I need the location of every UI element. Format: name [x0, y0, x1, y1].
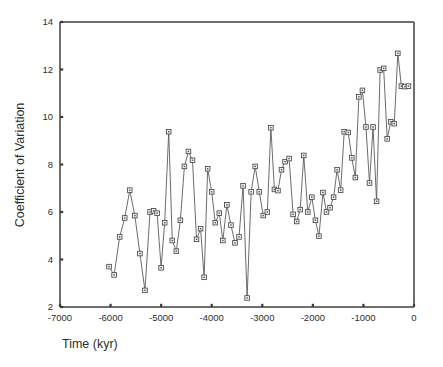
marker-center-dot	[372, 126, 373, 127]
marker-center-dot	[192, 160, 193, 161]
data-point-marker	[317, 234, 322, 239]
marker-center-dot	[397, 53, 398, 54]
data-point-marker	[205, 166, 210, 171]
data-point-marker	[331, 195, 336, 200]
marker-center-dot	[318, 236, 319, 237]
marker-center-dot	[144, 290, 145, 291]
marker-center-dot	[134, 215, 135, 216]
marker-center-dot	[263, 215, 264, 216]
data-point-marker	[265, 210, 270, 215]
x-tick-label: -1000	[351, 312, 375, 323]
marker-center-dot	[277, 190, 278, 191]
marker-center-dot	[200, 228, 201, 229]
marker-center-dot	[113, 274, 114, 275]
data-point-marker	[237, 235, 242, 240]
marker-center-dot	[250, 191, 251, 192]
series-markers	[107, 51, 411, 300]
marker-center-dot	[242, 185, 243, 186]
data-point-marker	[381, 66, 386, 71]
y-tick-label: 8	[48, 159, 53, 170]
data-point-marker	[306, 210, 311, 215]
marker-center-dot	[207, 168, 208, 169]
x-tick-label: -7000	[48, 312, 72, 323]
data-point-marker	[245, 296, 250, 301]
data-point-marker	[335, 167, 340, 172]
x-axis-title: Time (kyr)	[62, 337, 118, 351]
marker-center-dot	[351, 157, 352, 158]
data-point-marker	[178, 218, 183, 223]
data-point-marker	[190, 158, 195, 163]
marker-center-dot	[180, 220, 181, 221]
marker-center-dot	[288, 158, 289, 159]
data-point-marker	[209, 190, 214, 195]
data-point-marker	[162, 220, 167, 225]
marker-center-dot	[401, 85, 402, 86]
marker-center-dot	[296, 221, 297, 222]
marker-center-dot	[365, 126, 366, 127]
marker-center-dot	[326, 211, 327, 212]
data-point-marker	[217, 211, 222, 216]
data-point-marker	[269, 125, 274, 130]
data-point-marker	[321, 190, 326, 195]
data-point-marker	[279, 167, 284, 172]
x-tick-label: -5000	[149, 312, 173, 323]
data-point-marker	[346, 130, 351, 135]
marker-center-dot	[129, 189, 130, 190]
marker-center-dot	[119, 236, 120, 237]
marker-center-dot	[369, 182, 370, 183]
marker-center-dot	[156, 212, 157, 213]
plot-axes	[60, 22, 414, 307]
marker-center-dot	[333, 197, 334, 198]
marker-center-dot	[376, 201, 377, 202]
data-point-marker	[166, 129, 171, 134]
marker-center-dot	[303, 155, 304, 156]
data-point-marker	[186, 149, 191, 154]
line-chart: 2468101214 -7000-6000-5000-4000-3000-200…	[0, 0, 443, 367]
data-point-marker	[287, 156, 292, 161]
marker-center-dot	[383, 68, 384, 69]
marker-center-dot	[211, 191, 212, 192]
marker-center-dot	[246, 297, 247, 298]
marker-center-dot	[172, 240, 173, 241]
marker-center-dot	[188, 151, 189, 152]
marker-center-dot	[284, 161, 285, 162]
data-point-marker	[374, 199, 379, 204]
data-point-marker	[241, 184, 246, 189]
y-axis-title: Coefficient of Variation	[13, 103, 27, 228]
data-point-marker	[367, 181, 372, 186]
marker-center-dot	[164, 222, 165, 223]
data-point-marker	[392, 121, 397, 126]
marker-center-dot	[219, 212, 220, 213]
x-tick-label: -6000	[98, 312, 122, 323]
marker-center-dot	[307, 211, 308, 212]
marker-center-dot	[300, 209, 301, 210]
data-point-marker	[117, 235, 122, 240]
data-point-marker	[174, 249, 179, 254]
marker-center-dot	[176, 250, 177, 251]
marker-center-dot	[226, 204, 227, 205]
marker-center-dot	[139, 253, 140, 254]
marker-center-dot	[348, 132, 349, 133]
y-tick-label: 12	[42, 64, 53, 75]
x-tick-label: -4000	[200, 312, 224, 323]
marker-center-dot	[344, 131, 345, 132]
y-tick-label: 6	[48, 206, 53, 217]
y-tick-label: 2	[48, 301, 53, 312]
data-point-marker	[143, 288, 148, 293]
marker-center-dot	[387, 138, 388, 139]
marker-center-dot	[394, 123, 395, 124]
data-point-marker	[360, 88, 365, 93]
marker-center-dot	[222, 240, 223, 241]
data-point-marker	[249, 190, 254, 195]
data-point-marker	[396, 51, 401, 56]
marker-center-dot	[404, 86, 405, 87]
marker-center-dot	[259, 191, 260, 192]
marker-center-dot	[315, 220, 316, 221]
data-point-marker	[170, 238, 175, 243]
marker-center-dot	[203, 277, 204, 278]
data-point-marker	[364, 125, 369, 130]
data-point-marker	[328, 205, 333, 210]
marker-center-dot	[311, 197, 312, 198]
data-point-marker	[385, 137, 390, 142]
data-series-group	[107, 51, 411, 300]
